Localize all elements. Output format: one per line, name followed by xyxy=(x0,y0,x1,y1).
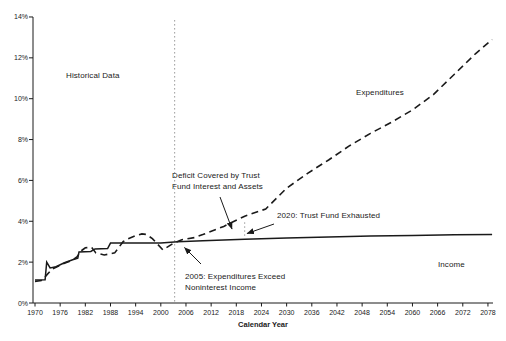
deficit-covered-note: Deficit Covered by Trust Fund Interest a… xyxy=(172,171,263,192)
x-tick-label: 2072 xyxy=(455,309,471,316)
x-tick-label: 1988 xyxy=(103,309,119,316)
trust-fund-exhausted-note: 2020: Trust Fund Exhausted xyxy=(277,211,380,220)
deficit-covered-note-line2: Fund Interest and Assets xyxy=(172,182,263,193)
x-tick-label: 2000 xyxy=(153,309,169,316)
expenditures-series-label: Expenditures xyxy=(356,88,404,97)
deficit-arrow xyxy=(220,197,232,229)
y-tick-label: 2% xyxy=(18,259,28,266)
x-tick-label: 2006 xyxy=(178,309,194,316)
y-tick-label: 12% xyxy=(14,54,28,61)
x-tick-label: 2054 xyxy=(380,309,396,316)
exhausted-arrow xyxy=(247,224,274,234)
x-tick-label: 1970 xyxy=(27,309,43,316)
y-tick-label: 14% xyxy=(14,13,28,20)
y-tick-label: 10% xyxy=(14,95,28,102)
x-tick-label: 2036 xyxy=(304,309,320,316)
historical-data-label: Historical Data xyxy=(66,71,120,80)
x-tick-label: 2066 xyxy=(430,309,446,316)
expenditures-exceed-note-line1: 2005: Expenditures Exceed xyxy=(185,271,285,282)
x-axis-title: Calendar Year xyxy=(183,320,343,329)
expenditures-exceed-note: 2005: Expenditures Exceed Noninterest In… xyxy=(185,271,285,293)
y-tick-label: 0% xyxy=(18,300,28,307)
x-tick-label: 1982 xyxy=(78,309,94,316)
x-tick-label: 2024 xyxy=(254,309,270,316)
x-tick-label: 2018 xyxy=(229,309,245,316)
x-tick-label: 1994 xyxy=(128,309,144,316)
x-tick-label: 2048 xyxy=(354,309,370,316)
y-tick-label: 4% xyxy=(18,218,28,225)
y-tick-label: 8% xyxy=(18,136,28,143)
y-tick-labels: 0%2%4%6%8%10%12%14% xyxy=(14,13,28,306)
x-tick-label: 2030 xyxy=(279,309,295,316)
x-tick-label: 2012 xyxy=(203,309,219,316)
exceed-arrow xyxy=(185,248,202,265)
x-tick-label: 2078 xyxy=(480,309,496,316)
expenditures-exceed-note-line2: Noninterest Income xyxy=(185,282,285,293)
income-series-label: Income xyxy=(438,260,465,269)
x-tick-label: 2060 xyxy=(405,309,421,316)
deficit-covered-note-line1: Deficit Covered by Trust xyxy=(172,171,263,182)
x-tick-label: 1976 xyxy=(52,309,68,316)
x-tick-labels: 1970197619821988199420002006201220182024… xyxy=(27,309,496,316)
x-tick-label: 2042 xyxy=(329,309,345,316)
chart-figure: 0%2%4%6%8%10%12%14%197019761982198819942… xyxy=(0,0,506,341)
y-tick-label: 6% xyxy=(18,177,28,184)
